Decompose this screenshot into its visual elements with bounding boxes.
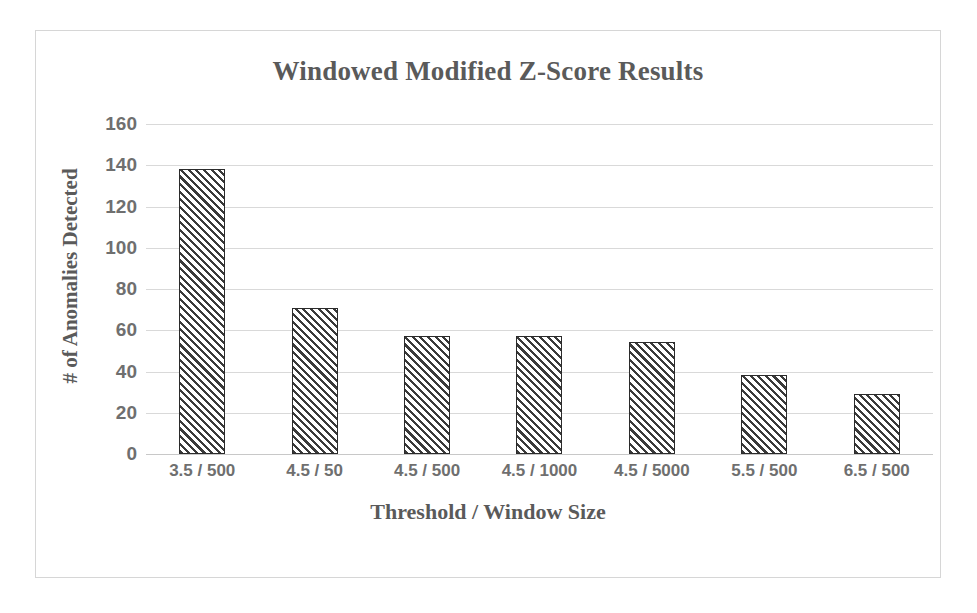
bar[interactable] xyxy=(292,308,338,454)
bar[interactable] xyxy=(629,342,675,454)
x-axis-tick-label: 4.5 / 50 xyxy=(258,461,370,489)
y-axis-tick-label: 80 xyxy=(116,278,137,300)
chart-title: Windowed Modified Z-Score Results xyxy=(36,56,940,87)
x-axis-title: Threshold / Window Size xyxy=(36,499,940,525)
y-axis-tick-label: 160 xyxy=(105,113,137,135)
y-axis-tick-label: 100 xyxy=(105,237,137,259)
y-axis-tick-label: 0 xyxy=(126,443,137,465)
x-axis-tick-label: 6.5 / 500 xyxy=(821,461,933,489)
bar-slot xyxy=(371,124,483,454)
y-axis-tick-label: 140 xyxy=(105,154,137,176)
bar-slot xyxy=(146,124,258,454)
x-axis-tick-label: 3.5 / 500 xyxy=(146,461,258,489)
bar[interactable] xyxy=(179,169,225,454)
y-axis-tick-label: 120 xyxy=(105,196,137,218)
bar[interactable] xyxy=(854,394,900,454)
x-axis-tick-label: 4.5 / 500 xyxy=(371,461,483,489)
bar[interactable] xyxy=(516,336,562,454)
y-axis-tick-label: 60 xyxy=(116,319,137,341)
x-axis-tick-label: 4.5 / 5000 xyxy=(596,461,708,489)
bar-slot xyxy=(821,124,933,454)
x-axis-tick-labels: 3.5 / 5004.5 / 504.5 / 5004.5 / 10004.5 … xyxy=(146,461,933,489)
bar[interactable] xyxy=(404,336,450,454)
bar[interactable] xyxy=(741,375,787,454)
y-axis-tick-label: 20 xyxy=(116,402,137,424)
chart-card: Windowed Modified Z-Score Results # of A… xyxy=(35,30,941,578)
bar-slot xyxy=(483,124,595,454)
plot-area: 020406080100120140160 xyxy=(146,124,933,454)
bar-slot xyxy=(258,124,370,454)
x-axis-tick-label: 5.5 / 500 xyxy=(708,461,820,489)
axis-baseline: 0 xyxy=(146,454,933,455)
y-axis-tick-label: 40 xyxy=(116,361,137,383)
bar-slot xyxy=(596,124,708,454)
bar-slot xyxy=(708,124,820,454)
bars-layer xyxy=(146,124,933,454)
x-axis-tick-label: 4.5 / 1000 xyxy=(483,461,595,489)
y-axis-title: # of Anomalies Detected xyxy=(58,126,80,426)
